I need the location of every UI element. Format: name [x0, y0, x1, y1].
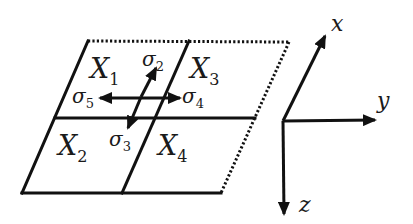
- label-sigma5: σ5: [72, 84, 94, 111]
- grid-diagram: X1 X3 X2 X4 σ2 σ3 σ4 σ5 x y z: [0, 0, 413, 224]
- label-axis-y: y: [376, 88, 390, 113]
- grid-lines: [22, 41, 255, 193]
- label-x1: X1: [88, 53, 119, 89]
- label-x2: X2: [56, 130, 87, 166]
- coordinate-axes: [283, 36, 375, 214]
- arrow-sigma2: [141, 68, 156, 97]
- label-axis-x: x: [331, 11, 344, 36]
- label-sigma4: σ4: [182, 84, 204, 111]
- label-x4: X4: [156, 130, 187, 166]
- axis-y: [283, 120, 375, 121]
- label-sigma3: σ3: [109, 127, 131, 154]
- label-axis-z: z: [298, 192, 311, 217]
- axis-z: [283, 121, 284, 214]
- axis-x: [283, 36, 325, 121]
- arrow-sigma3: [128, 97, 141, 128]
- axis-labels: x y z: [298, 11, 390, 217]
- label-sigma2: σ2: [142, 47, 164, 74]
